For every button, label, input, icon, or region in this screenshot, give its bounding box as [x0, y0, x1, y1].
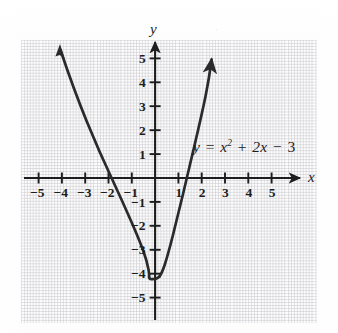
y-tick-label-minus1: −1	[131, 196, 145, 210]
y-tick-label-2: 2	[139, 124, 146, 138]
y-tick-label-5: 5	[139, 52, 146, 66]
equation-operator-plus: +	[236, 138, 248, 155]
x-tick-label-minus5: −5	[30, 186, 44, 200]
equation-equals: =	[204, 138, 216, 155]
y-tick-label-minus5: −5	[131, 291, 145, 305]
equation-lhs: y	[193, 138, 200, 155]
x-tick-label-3: 3	[222, 186, 229, 200]
equation-term1-exponent: 2	[227, 138, 232, 148]
plot-canvas	[0, 0, 338, 333]
y-tick-label-4: 4	[139, 76, 146, 90]
x-axis	[24, 173, 300, 184]
equation-term3: 3	[288, 138, 296, 155]
y-tick-label-minus4: −4	[131, 267, 145, 281]
x-tick-label-5: 5	[269, 186, 276, 200]
x-tick-label-minus4: −4	[54, 186, 68, 200]
equation-annotation: y = x2 + 2x − 3	[193, 139, 295, 155]
graph-figure: −5 −4 −3 −2 −1 1 2 3 4 5 5 4 3 2 1 −1 −2…	[0, 0, 338, 333]
equation-operator-minus: −	[271, 138, 283, 155]
y-tick-label-minus2: −2	[131, 219, 145, 233]
parabola-right-branch	[159, 60, 211, 277]
y-tick-label-3: 3	[139, 100, 146, 114]
x-axis-label: x	[308, 170, 315, 185]
x-tick-label-2: 2	[199, 186, 206, 200]
y-tick-label-1: 1	[139, 148, 146, 162]
x-tick-label-minus2: −2	[100, 186, 114, 200]
x-tick-label-1: 1	[176, 186, 183, 200]
y-tick-label-minus3: −3	[131, 243, 145, 257]
x-tick-label-4: 4	[245, 186, 252, 200]
equation-term2: 2x	[252, 138, 267, 155]
x-tick-label-minus3: −3	[77, 186, 91, 200]
y-axis-label: y	[150, 22, 157, 37]
